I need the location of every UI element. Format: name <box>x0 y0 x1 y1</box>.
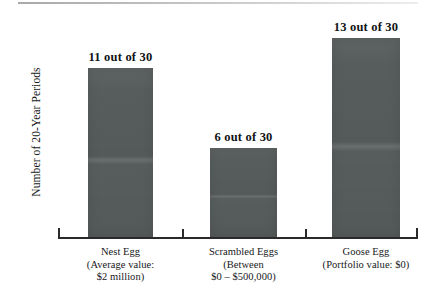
bar-goose-egg <box>332 38 400 237</box>
axis-tick-divider-2 <box>305 229 307 238</box>
category-label-nest-egg: Nest Egg (Average value: $2 million) <box>58 246 183 284</box>
axis-tick-left-end <box>58 228 60 238</box>
category-label-line: (Between <box>182 259 305 272</box>
category-label-line: $0 – $500,000) <box>182 271 305 284</box>
category-label-goose-egg: Goose Egg (Portfolio value: $0) <box>300 246 432 271</box>
plot-area: 11 out of 30 Nest Egg (Average value: $2… <box>0 0 435 301</box>
category-label-line: Scrambled Eggs <box>182 246 305 259</box>
axis-tick-divider-1 <box>182 229 184 238</box>
bar-value-nest-egg: 11 out of 30 <box>70 50 171 65</box>
bar-nest-egg <box>88 68 153 237</box>
category-label-line: Nest Egg <box>58 246 183 259</box>
x-axis-line <box>58 237 418 239</box>
bar-value-goose-egg: 13 out of 30 <box>313 20 419 35</box>
bar-value-scrambled-eggs: 6 out of 30 <box>193 130 294 145</box>
category-label-scrambled-eggs: Scrambled Eggs (Between $0 – $500,000) <box>182 246 305 284</box>
bar-scrambled-eggs <box>210 148 277 237</box>
category-label-line: (Portfolio value: $0) <box>300 259 432 272</box>
category-label-line: (Average value: <box>58 259 183 272</box>
category-label-line: $2 million) <box>58 271 183 284</box>
bar-chart: Number of 20-Year Periods 11 out of 30 N… <box>0 0 435 301</box>
category-label-line: Goose Egg <box>300 246 432 259</box>
axis-tick-right-end <box>416 228 418 238</box>
